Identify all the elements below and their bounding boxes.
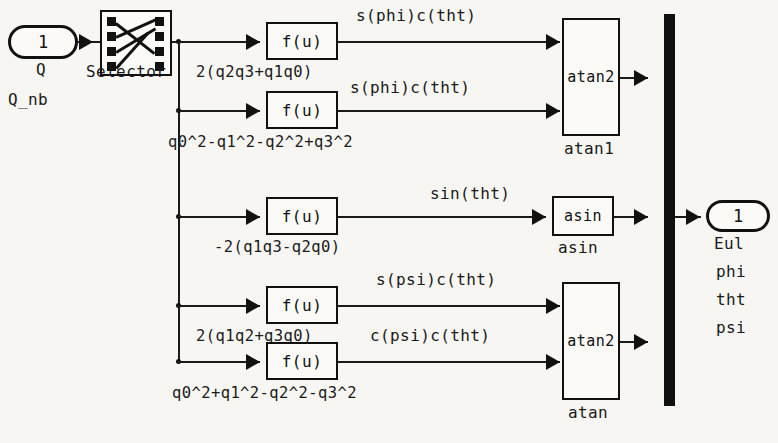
arrow-into-fu-2 — [246, 103, 260, 119]
arrow-into-selector — [79, 34, 93, 50]
atan2-block-2[interactable]: atan2 — [562, 282, 620, 400]
bus-vertical — [178, 41, 180, 361]
atan2-block-1-label: atan1 — [564, 139, 614, 158]
selector-label: Selector — [86, 62, 166, 81]
input-signal-label: Q_nb — [8, 90, 48, 109]
arrow-into-output-port — [686, 209, 700, 225]
arrow-into-asin — [532, 209, 546, 225]
selector-terminal-in-1 — [107, 17, 116, 26]
wire-fu2-to-atan1 — [338, 110, 560, 112]
atan2-block-1-text: atan2 — [564, 68, 618, 86]
asin-block-text: asin — [554, 207, 612, 225]
selector-terminal-out-2 — [155, 32, 164, 41]
arrow-into-mux-2 — [634, 209, 648, 225]
fu-block-5-text: f(u) — [268, 352, 336, 371]
signal-label-5: c(psi)c(tht) — [370, 326, 490, 345]
arrow-into-atan1-bottom — [546, 103, 560, 119]
fu-block-2-text: f(u) — [268, 101, 336, 120]
arrow-into-mux-3 — [634, 334, 648, 350]
output-port-number: 1 — [709, 206, 767, 226]
mux-bar-icon[interactable] — [664, 14, 675, 406]
atan2-block-2-label: atan — [568, 403, 608, 422]
arrow-into-fu-3 — [246, 209, 260, 225]
output-port-label: Eul — [714, 234, 744, 253]
output-component-phi: phi — [716, 262, 746, 281]
arrow-into-mux-1 — [634, 70, 648, 86]
signal-label-2: s(phi)c(tht) — [350, 78, 470, 97]
fu-block-1[interactable]: f(u) — [266, 22, 338, 60]
input-port-number: 1 — [11, 32, 75, 52]
fu-block-3-expression: -2(q1q3-q2q0) — [214, 238, 341, 256]
wire-fu1-to-atan1 — [338, 41, 560, 43]
input-port-Q[interactable]: 1 — [8, 25, 78, 59]
fu-block-4-text: f(u) — [268, 296, 336, 315]
fu-block-4[interactable]: f(u) — [266, 286, 338, 324]
output-port-Eul[interactable]: 1 — [706, 200, 770, 232]
fu-block-1-expression: 2(q2q3+q1q0) — [196, 63, 313, 81]
signal-label-3: sin(tht) — [430, 184, 510, 203]
atan2-block-1[interactable]: atan2 — [562, 18, 620, 136]
asin-block[interactable]: asin — [552, 196, 614, 236]
fu-block-2-expression: q0^2-q1^2-q2^2+q3^2 — [168, 133, 353, 151]
arrow-into-atan1-top — [546, 34, 560, 50]
wire-fu5-to-atan — [338, 361, 560, 363]
atan2-block-2-text: atan2 — [564, 332, 618, 350]
simulink-diagram-canvas: 1 Q Q_nb Selector f(u) 2(q2q3+q1q0) — [0, 0, 778, 443]
fu-block-2[interactable]: f(u) — [266, 91, 338, 129]
arrow-into-fu-5 — [246, 354, 260, 370]
arrow-into-atan-top — [546, 298, 560, 314]
input-port-label: Q — [36, 60, 46, 79]
signal-label-1: s(phi)c(tht) — [356, 6, 476, 25]
fu-block-1-text: f(u) — [268, 32, 336, 51]
signal-label-4: s(psi)c(tht) — [376, 270, 496, 289]
arrow-into-fu-1 — [246, 34, 260, 50]
asin-block-label: asin — [558, 238, 598, 257]
fu-block-5-expression: q0^2+q1^2-q2^2-q3^2 — [172, 384, 357, 402]
output-component-tht: tht — [716, 290, 746, 309]
selector-terminal-out-3 — [155, 47, 164, 56]
output-component-psi: psi — [716, 318, 746, 337]
wire-fu4-to-atan — [338, 305, 560, 307]
wire-fu3-to-asin — [338, 216, 546, 218]
arrow-into-atan-bottom — [546, 354, 560, 370]
fu-block-3-text: f(u) — [268, 207, 336, 226]
fu-block-5[interactable]: f(u) — [266, 342, 338, 380]
arrow-into-fu-4 — [246, 298, 260, 314]
fu-block-3[interactable]: f(u) — [266, 197, 338, 235]
selector-terminal-in-2 — [107, 32, 116, 41]
